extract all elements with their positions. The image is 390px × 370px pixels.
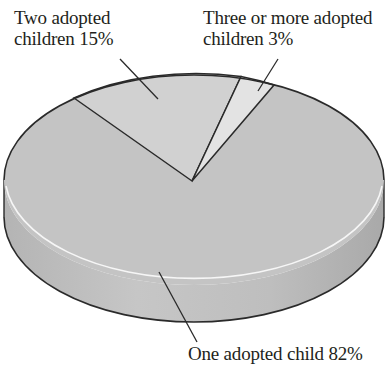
label-three-line2: children 3% (203, 28, 372, 49)
label-two-adopted-children: Two adopted children 15% (14, 7, 113, 49)
pie-chart: Two adopted children 15% Three or more a… (0, 0, 390, 370)
label-one-line1: One adopted child 82% (188, 343, 363, 364)
label-three-or-more-adopted-children: Three or more adopted children 3% (203, 7, 372, 49)
label-one-adopted-child: One adopted child 82% (188, 343, 363, 364)
label-two-line2: children 15% (14, 28, 113, 49)
label-two-line1: Two adopted (14, 7, 113, 28)
label-three-line1: Three or more adopted (203, 7, 372, 28)
pie-chart-graphic (0, 0, 390, 370)
